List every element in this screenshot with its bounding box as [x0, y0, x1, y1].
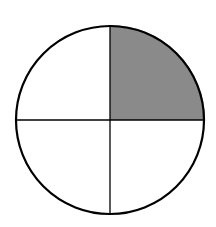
fraction-circle-diagram — [0, 0, 216, 227]
